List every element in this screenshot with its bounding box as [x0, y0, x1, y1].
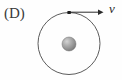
physics-figure-panel-d: (D) v: [0, 0, 122, 80]
velocity-arrowhead-icon: [98, 10, 104, 15]
orbiting-particle-dot: [67, 11, 70, 14]
central-sphere: [62, 37, 76, 51]
panel-label: (D): [4, 4, 25, 22]
velocity-label: v: [109, 2, 115, 16]
